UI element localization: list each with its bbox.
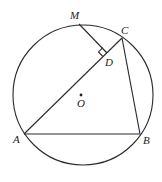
segment-bc [122,38,140,134]
geometry-diagram: A B C M D O [0,0,162,182]
right-angle-marker [99,48,103,57]
circle-o [13,25,153,165]
center-point-o [80,94,83,97]
label-a: A [12,133,20,145]
label-d: D [104,56,113,68]
label-c: C [121,24,129,36]
segment-ac [24,38,122,134]
label-b: B [143,134,150,146]
label-o: O [77,97,85,109]
label-m: M [69,9,80,21]
